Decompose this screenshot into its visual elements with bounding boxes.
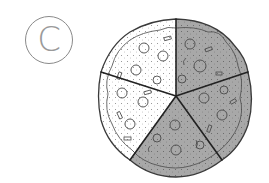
- pizza-illustration: [0, 0, 269, 183]
